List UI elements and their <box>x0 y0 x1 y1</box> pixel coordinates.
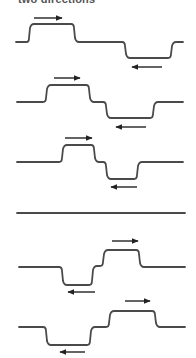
waveform-diagram <box>0 0 196 358</box>
wave-3-trace <box>17 145 183 179</box>
wave-1 <box>16 18 183 67</box>
wave-1-trace <box>16 24 183 58</box>
wave-4-trace <box>19 250 185 285</box>
wave-4 <box>19 241 185 292</box>
wave-2-trace <box>17 85 183 118</box>
wave-5-trace <box>19 311 185 345</box>
wave-5 <box>19 301 185 352</box>
wave-2 <box>17 78 183 127</box>
wave-3 <box>17 138 183 187</box>
